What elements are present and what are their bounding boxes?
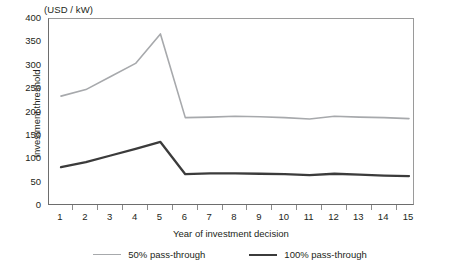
plot-area <box>48 18 414 205</box>
y-axis-tick-label: 250 <box>1 83 41 93</box>
x-axis-tick-mark <box>396 205 397 210</box>
series-line <box>61 142 409 176</box>
y-axis-tick-label: 50 <box>1 177 41 187</box>
series-line <box>61 34 409 119</box>
x-axis-tick-mark <box>371 205 372 210</box>
x-axis-tick-label: 7 <box>197 211 221 222</box>
legend-label: 100% pass-through <box>284 249 366 260</box>
y-axis-unit-caption: (USD / kW) <box>44 4 93 15</box>
x-axis-tick-label: 10 <box>272 211 296 222</box>
x-axis-tick-mark <box>197 205 198 210</box>
x-axis-tick-label: 14 <box>371 211 395 222</box>
y-axis-tick-label: 150 <box>1 130 41 140</box>
x-axis-tick-mark <box>147 205 148 210</box>
x-axis-tick-label: 12 <box>321 211 345 222</box>
x-axis-tick-label: 6 <box>172 211 196 222</box>
x-axis-tick-label: 3 <box>98 211 122 222</box>
x-axis-tick-mark <box>222 205 223 210</box>
legend-line-swatch-icon <box>93 254 121 255</box>
x-axis-tick-label: 8 <box>222 211 246 222</box>
x-axis-tick-label: 9 <box>247 211 271 222</box>
x-axis-tick-mark <box>97 205 98 210</box>
x-axis-tick-mark <box>296 205 297 210</box>
legend-item[interactable]: 100% pass-through <box>249 249 366 260</box>
y-axis-tick-label: 0 <box>1 200 41 210</box>
x-axis-tick-mark <box>122 205 123 210</box>
x-axis-tick-label: 5 <box>147 211 171 222</box>
x-axis-tick-mark <box>246 205 247 210</box>
series-lines <box>49 19 415 206</box>
x-axis-tick-mark <box>271 205 272 210</box>
chart-legend: 50% pass-through100% pass-through <box>0 249 460 260</box>
y-axis-tick-label: 350 <box>1 36 41 46</box>
y-axis-tick-label: 300 <box>1 60 41 70</box>
x-axis-tick-mark <box>321 205 322 210</box>
x-axis-tick-label: 11 <box>297 211 321 222</box>
x-axis-tick-label: 2 <box>73 211 97 222</box>
x-axis-title: Year of investment decision <box>48 228 414 239</box>
x-axis-tick-mark <box>346 205 347 210</box>
x-axis-tick-label: 4 <box>123 211 147 222</box>
legend-item[interactable]: 50% pass-through <box>93 249 205 260</box>
x-axis-tick-mark <box>72 205 73 210</box>
x-axis-tick-label: 15 <box>396 211 420 222</box>
x-axis-tick-label: 1 <box>48 211 72 222</box>
x-axis-tick-mark <box>172 205 173 210</box>
y-axis-tick-label: 400 <box>1 13 41 23</box>
y-axis-tick-label: 100 <box>1 153 41 163</box>
legend-label: 50% pass-through <box>128 249 205 260</box>
legend-line-swatch-icon <box>249 254 277 256</box>
x-axis-tick-label: 13 <box>346 211 370 222</box>
chart-figure: (USD / kW) Investment threshold 05010015… <box>0 0 460 277</box>
y-axis-tick-label: 200 <box>1 107 41 117</box>
